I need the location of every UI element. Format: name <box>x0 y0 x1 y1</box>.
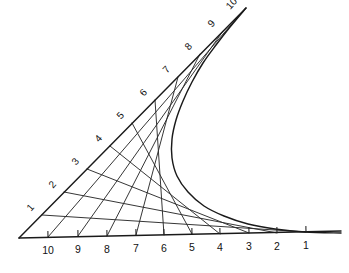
horizontal-ray-label-3: 3 <box>246 240 252 252</box>
horizontal-ray-label-9: 9 <box>75 243 81 255</box>
horizontal-ray-label-7: 7 <box>133 242 139 254</box>
string-art-figure: 1098765432112345678910 <box>0 0 349 273</box>
horizontal-ray-label-6: 6 <box>161 242 167 254</box>
horizontal-ray-label-8: 8 <box>104 243 110 255</box>
envelope-diagram-canvas: 1098765432112345678910 <box>0 0 349 273</box>
horizontal-ray-label-4: 4 <box>217 241 223 253</box>
horizontal-ray-label-2: 2 <box>274 240 280 252</box>
horizontal-ray-label-1: 1 <box>303 239 309 251</box>
horizontal-ray-label-5: 5 <box>189 241 195 253</box>
horizontal-ray-label-10: 10 <box>42 244 54 256</box>
